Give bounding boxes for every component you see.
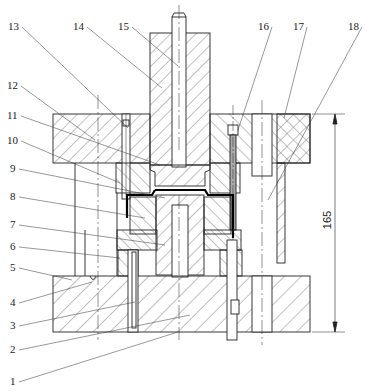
part-label-3: 3 [10,320,16,331]
leader-line-18 [268,27,362,200]
part-label-9: 9 [10,163,16,174]
part-label-2: 2 [10,344,16,355]
part-label-16: 16 [258,21,269,32]
part-label-12: 12 [7,80,18,91]
dimension-165: 165 [321,211,333,229]
part-label-5: 5 [10,262,16,273]
part-label-10: 10 [7,135,18,146]
part-label-6: 6 [10,241,16,252]
part-label-1: 1 [10,376,16,387]
leader-line-13 [22,27,128,128]
leader-line-5 [19,268,72,280]
leader-line-1 [19,332,178,382]
punch-head-9 [150,165,210,186]
blank-holder-left [130,197,156,234]
part-label-15: 15 [118,21,129,32]
part-label-17: 17 [293,21,304,32]
part-label-7: 7 [10,219,16,230]
leader-line-6 [19,247,120,258]
part-label-11: 11 [7,110,18,121]
part-label-13: 13 [8,21,19,32]
part-label-14: 14 [73,21,84,32]
part-label-18: 18 [348,21,359,32]
die-assembly-drawing [0,0,367,391]
blank-holder-right [204,197,231,234]
leader-line-17 [284,27,307,118]
stripper-ring-left [116,163,150,193]
upper-plate-left [53,114,150,163]
part-label-4: 4 [10,297,16,308]
part-label-8: 8 [10,191,16,202]
